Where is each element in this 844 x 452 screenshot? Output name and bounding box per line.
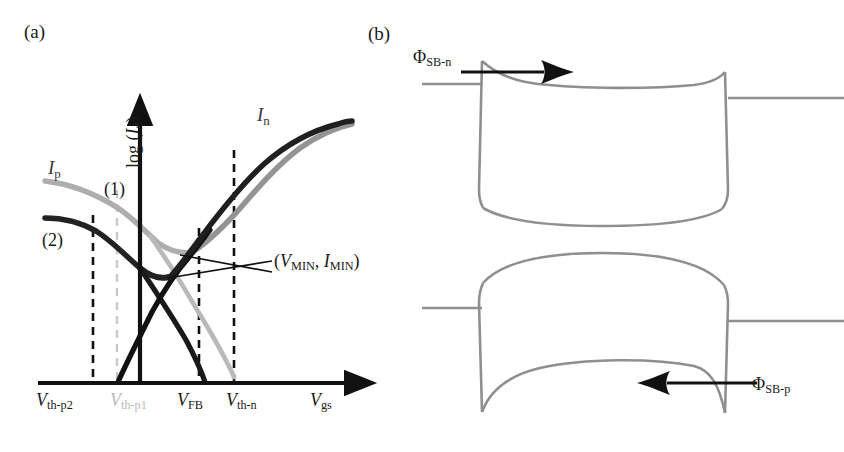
band-diagram-top bbox=[422, 61, 844, 226]
min-i-sub: MIN bbox=[330, 259, 354, 273]
in-sub: n bbox=[263, 113, 269, 128]
top-valence-band bbox=[483, 208, 722, 226]
phi-sb-n-sub: SB-n bbox=[426, 55, 451, 69]
y-axis-label-close: ) bbox=[123, 116, 143, 122]
vth-n-var: V bbox=[226, 390, 237, 410]
phi-sb-p-label: ΦSB-p bbox=[752, 375, 790, 396]
min-comma: , bbox=[315, 251, 324, 271]
curve-case2-total bbox=[45, 218, 170, 278]
x-axis-sub: gs bbox=[321, 398, 332, 412]
x-axis-var: V bbox=[310, 390, 321, 410]
y-axis-label: log (Id) bbox=[124, 116, 145, 168]
curve-case2-hole-branch bbox=[140, 268, 205, 382]
y-axis-label-log: log ( bbox=[123, 135, 143, 169]
min-v-var: V bbox=[280, 251, 291, 271]
curve-label-case2: (2) bbox=[42, 231, 63, 249]
panel-a-plot bbox=[0, 0, 422, 452]
panel-b-tag: (b) bbox=[368, 24, 390, 43]
min-point-annotation: (VMIN, IMIN) bbox=[274, 252, 360, 273]
vfb-var: V bbox=[177, 390, 188, 410]
curve-label-ip: Ip bbox=[48, 158, 61, 181]
phi-sb-n-label: ΦSB-n bbox=[413, 48, 451, 69]
vfb-sub: FB bbox=[188, 398, 203, 412]
curve-label-in: In bbox=[257, 105, 270, 128]
x-tick-label-vfb: VFB bbox=[177, 391, 203, 412]
bottom-left-band-edge bbox=[479, 283, 483, 412]
x-tick-label-vth-p1: Vth-p1 bbox=[110, 391, 147, 412]
vth-p2-var: V bbox=[36, 390, 47, 410]
bottom-conduction-band bbox=[483, 253, 724, 285]
vth-p1-var: V bbox=[110, 390, 121, 410]
bottom-valence-band bbox=[482, 360, 725, 413]
phi-sb-p-symbol: Φ bbox=[752, 374, 765, 394]
curve-in-gray bbox=[192, 124, 352, 252]
curve-label-case1: (1) bbox=[104, 180, 125, 198]
x-axis-label: Vgs bbox=[310, 391, 332, 412]
top-conduction-band bbox=[482, 61, 725, 88]
x-tick-label-vth-n: Vth-n bbox=[226, 391, 257, 412]
bottom-right-band-edge bbox=[724, 285, 728, 413]
phi-sb-p-sub: SB-p bbox=[765, 382, 790, 396]
x-tick-label-vth-p2: Vth-p2 bbox=[36, 391, 73, 412]
vth-p1-sub: th-p1 bbox=[121, 398, 147, 412]
vth-p2-sub: th-p2 bbox=[47, 398, 73, 412]
ip-sub: p bbox=[54, 166, 60, 181]
panel-a-tag: (a) bbox=[24, 22, 45, 41]
y-axis-label-var: I bbox=[123, 129, 143, 135]
min-close-paren: ) bbox=[354, 251, 360, 271]
vth-n-sub: th-n bbox=[237, 398, 257, 412]
y-axis-label-sub: d bbox=[131, 122, 145, 128]
figure-root: (a) log (Id) Ip In (1) (2) (VMIN, IMIN) … bbox=[0, 0, 844, 452]
phi-sb-n-symbol: Φ bbox=[413, 47, 426, 67]
min-v-sub: MIN bbox=[291, 259, 315, 273]
top-right-band-edge bbox=[722, 72, 728, 209]
